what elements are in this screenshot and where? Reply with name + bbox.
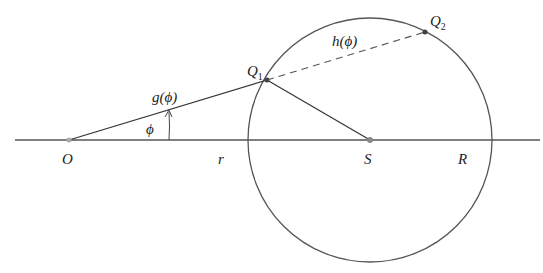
label-h-phi: h(ϕ) bbox=[332, 33, 357, 50]
label-q1: Q1 bbox=[247, 63, 263, 82]
point-s bbox=[367, 137, 373, 143]
label-s: S bbox=[364, 151, 372, 167]
angle-arc bbox=[169, 112, 170, 140]
label-r: r bbox=[218, 151, 224, 167]
label-g-phi: g(ϕ) bbox=[152, 89, 177, 106]
label-q2: Q2 bbox=[430, 13, 446, 32]
label-o: O bbox=[62, 151, 73, 167]
segment-q1-s bbox=[267, 80, 370, 140]
point-o bbox=[67, 138, 72, 143]
point-q1 bbox=[265, 78, 270, 83]
geometry-diagram: O S Q1 Q2 g(ϕ) h(ϕ) ϕ r R bbox=[0, 0, 543, 273]
label-phi: ϕ bbox=[146, 121, 154, 137]
point-q2 bbox=[423, 30, 428, 35]
label-R: R bbox=[457, 151, 467, 167]
